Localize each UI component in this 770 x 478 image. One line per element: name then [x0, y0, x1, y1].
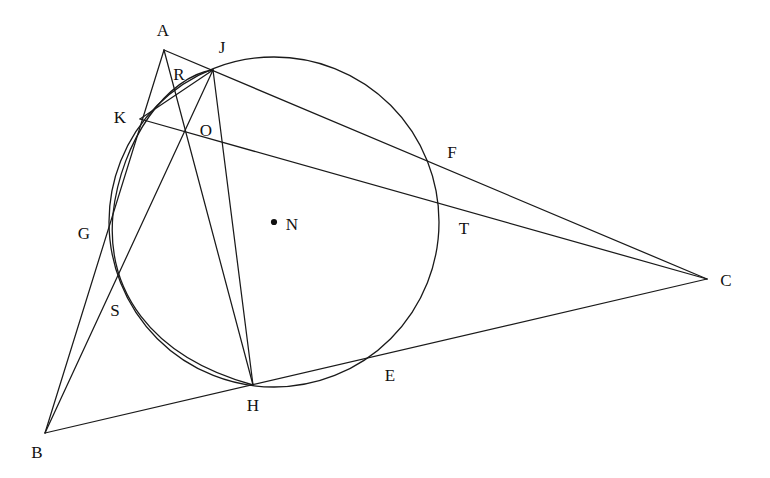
- point-label-r: R: [173, 66, 184, 83]
- point-label-h: H: [247, 397, 259, 414]
- point-label-b: B: [31, 444, 42, 461]
- side-AC-through-J-F: [164, 50, 707, 279]
- line-KC-through-O-T: [140, 119, 707, 279]
- side-AB: [45, 50, 164, 433]
- point-label-e: E: [385, 367, 395, 384]
- point-label-a: A: [157, 22, 169, 39]
- secondary-arc-through-J-K-S-H: [112, 70, 253, 385]
- point-label-g: G: [78, 225, 90, 242]
- arcs-group: [112, 70, 253, 385]
- segments-group: [45, 50, 707, 433]
- line-BJ-through-S-O: [45, 70, 213, 433]
- point-label-k: K: [114, 109, 126, 126]
- point-label-s: S: [110, 302, 119, 319]
- chord-JH-through-O: [213, 70, 253, 385]
- side-BC-through-H-E: [45, 279, 707, 433]
- cevian-AH: [164, 50, 253, 385]
- point-dot-n: [271, 219, 277, 225]
- point-label-o: O: [200, 122, 212, 139]
- point-label-j: J: [219, 39, 226, 56]
- point-dots-group: [271, 219, 277, 225]
- point-label-n: N: [286, 216, 298, 233]
- point-label-f: F: [447, 144, 456, 161]
- point-label-c: C: [720, 272, 731, 289]
- point-label-t: T: [459, 220, 469, 237]
- geometry-figure: AJRKOFNTGCSEHB: [0, 0, 770, 478]
- geometry-canvas: [0, 0, 770, 478]
